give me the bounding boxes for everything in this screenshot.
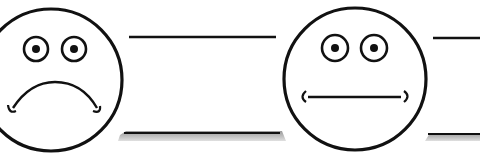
illustration-canvas [0,0,480,154]
sad-face-icon [0,9,122,151]
neutral-face-icon [284,8,426,150]
line-bottom-right [425,133,480,141]
line-bottom-middle [118,131,286,141]
